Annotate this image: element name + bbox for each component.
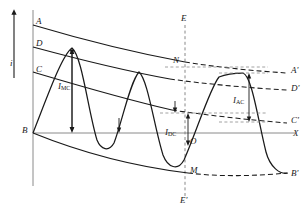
envelope-curve-D-prime-dashed	[170, 79, 287, 90]
label-A: A	[36, 17, 42, 26]
label-i-dc-subscript: DC	[168, 131, 176, 137]
label-i-axis: i	[10, 59, 13, 68]
waveform-diagram-svg	[0, 0, 308, 215]
label-D-prime: D'	[291, 84, 299, 93]
label-B: B	[22, 126, 28, 135]
i-ac-measure-arrow	[247, 73, 251, 122]
label-A-prime: A'	[291, 66, 298, 75]
label-E: E	[181, 14, 187, 23]
label-i-dc: IDC	[165, 128, 176, 137]
label-C-prime: C'	[291, 116, 299, 125]
label-E-prime: E'	[180, 196, 187, 205]
label-i-mc: IMC	[58, 82, 70, 91]
label-O: O	[190, 137, 197, 146]
label-N: N	[173, 56, 179, 65]
label-i-mc-subscript: MC	[61, 85, 70, 91]
current-waveform	[33, 48, 288, 173]
envelope-curve-B	[33, 133, 188, 173]
figure-canvas: i A D C B E E' N M O A' D' C' X B' IMC I…	[0, 0, 308, 215]
label-C: C	[36, 65, 42, 74]
envelope-curve-B-prime-dashed	[188, 173, 287, 176]
envelope-curve-A-prime-dashed	[185, 62, 287, 73]
envelope-curve-A	[33, 25, 185, 62]
label-D: D	[36, 39, 43, 48]
label-B-prime: B'	[291, 169, 298, 178]
label-M: M	[190, 166, 198, 175]
label-i-ac-subscript: AC	[236, 99, 244, 105]
label-i-ac: IAC	[233, 96, 244, 105]
label-X-axis: X	[293, 129, 299, 138]
envelope-curve-D	[33, 47, 170, 79]
